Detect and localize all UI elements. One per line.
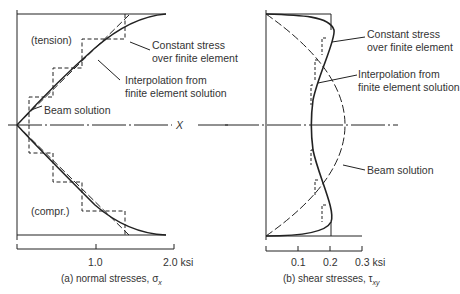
panel-a-interpolation-label-1: Interpolation from	[125, 74, 207, 86]
panel-a-beam-label: Beam solution	[44, 104, 111, 116]
panel-a-constant-stress-label-1: Constant stress	[152, 39, 225, 51]
panel-a-constant-stress-label-2: over finite element	[152, 52, 238, 64]
panel-a-tick-1: 1.0	[88, 256, 103, 268]
panel-b-constant-stress-label-2: over finite element	[367, 41, 453, 53]
label-tension: (tension)	[31, 34, 72, 46]
axis-label-x: X	[176, 119, 183, 131]
panel-a-interpolation-label-2: finite element solution	[125, 87, 227, 99]
panel-b-beam-label: Beam solution	[367, 164, 434, 176]
panel-a-caption: (a) normal stresses, σx	[61, 273, 162, 286]
panel-b-tick-2: 0.2	[323, 256, 338, 268]
panel-b-interpolation-label-1: Interpolation from	[358, 68, 440, 80]
panel-b-tick-3: 0.3 ksi	[355, 256, 385, 268]
panel-a-tick-2: 2.0 ksi	[163, 256, 193, 268]
panel-b-interpolation-label-2: finite element solution	[358, 81, 460, 93]
panel-b-constant-stress-label-1: Constant stress	[367, 28, 440, 40]
panel-b-tick-1: 0.1	[291, 256, 306, 268]
panel-a-scale	[17, 244, 174, 249]
panel-b-caption: (b) shear stresses, τxy	[283, 273, 380, 286]
label-compression: (compr.)	[31, 205, 70, 217]
panel-b-scale	[266, 246, 362, 251]
